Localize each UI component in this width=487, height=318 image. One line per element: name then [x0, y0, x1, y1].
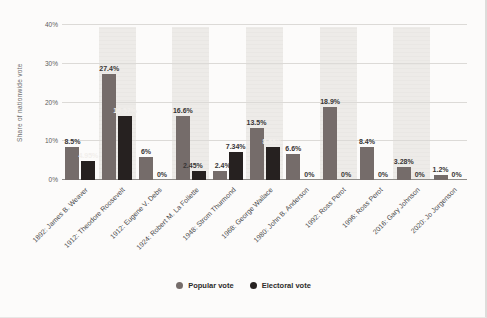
bar-electoral [229, 152, 243, 180]
bar-popular [250, 128, 264, 180]
x-tick-label: 2020: Jo Jorgenson [368, 186, 458, 276]
legend-item-electoral: Electoral vote [250, 281, 311, 290]
bar-value-label: 27.4% [92, 65, 126, 72]
grid-line [62, 63, 467, 64]
bar-popular [102, 74, 116, 180]
bar-value-label: 0% [329, 171, 363, 178]
bar-value-label: 0% [366, 171, 400, 178]
y-axis-title: Share of nationwide vote [16, 28, 23, 178]
bar-electoral [192, 171, 206, 180]
bar-value-label: 8.4% [350, 138, 384, 145]
bar-value-label: 7.34% [219, 143, 253, 150]
bar-electoral [118, 116, 132, 180]
bar-value-label: 4.95% [71, 152, 105, 159]
bar-popular [213, 171, 227, 180]
electoral-legend-dot-icon [250, 282, 257, 289]
bar-popular [323, 107, 337, 180]
y-tick-label: 40% [26, 21, 58, 28]
bar-value-label: 16.6% [166, 107, 200, 114]
y-tick-label: 20% [26, 99, 58, 106]
bar-value-label: 2.45% [176, 162, 210, 169]
legend-label: Popular vote [188, 281, 233, 290]
bar-value-label: 0% [292, 171, 326, 178]
popular-legend-dot-icon [176, 282, 183, 289]
bar-value-label: 0% [403, 171, 437, 178]
grid-line [62, 24, 467, 25]
bar-value-label: 18.9% [313, 98, 347, 105]
bar-value-label: 8.55% [256, 138, 290, 145]
legend: Popular voteElectoral vote [0, 281, 487, 290]
y-tick-label: 30% [26, 60, 58, 67]
bar-electoral [266, 147, 280, 180]
legend-item-popular: Popular vote [176, 281, 233, 290]
bar-value-label: 3.28% [387, 158, 421, 165]
bar-value-label: 6% [129, 148, 163, 155]
bar-value-label: 6.6% [276, 145, 310, 152]
plot-area: 8.5%27.4%6%16.6%2.4%13.5%6.6%18.9%8.4%3.… [62, 25, 467, 180]
y-tick-label: 10% [26, 137, 58, 144]
bar-value-label: 13.5% [240, 119, 274, 126]
bar-value-label: 8.5% [55, 138, 89, 145]
bar-value-label: 0% [145, 171, 179, 178]
grid-line [62, 102, 467, 103]
bar-electoral [81, 161, 95, 180]
y-tick-label: 0% [26, 176, 58, 183]
bar-value-label: 16.57% [108, 107, 142, 114]
bar-value-label: 0% [440, 171, 474, 178]
legend-label: Electoral vote [262, 281, 311, 290]
chart-figure: Share of nationwide vote 8.5%27.4%6%16.6… [0, 0, 487, 318]
